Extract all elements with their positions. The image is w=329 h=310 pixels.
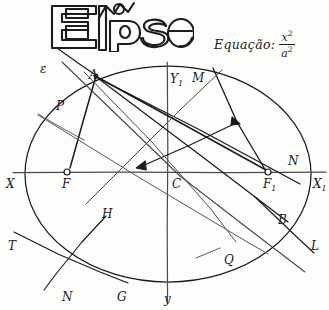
label-P-text: P xyxy=(56,99,64,113)
equation-denominator: a2 xyxy=(279,46,294,59)
focus-F1-marker xyxy=(265,169,271,175)
label-F: F xyxy=(62,178,70,190)
line-M-down-left xyxy=(86,70,222,204)
label-T: T xyxy=(8,240,16,252)
segment-P-to-chord xyxy=(38,114,84,140)
segment-A-to-B xyxy=(99,79,288,222)
label-P: P xyxy=(56,100,64,112)
equation-numerator: x2 xyxy=(279,30,294,43)
label-T-text: T xyxy=(8,239,16,253)
label-Y1: Y1 xyxy=(170,73,183,88)
label-X1: X1 xyxy=(313,178,327,193)
label-Y1-text: Y xyxy=(170,72,178,86)
tangent-line-T-G xyxy=(14,232,128,283)
label-M: M xyxy=(192,72,204,84)
label-G-text: G xyxy=(117,290,127,304)
label-Y1-subscript: 1 xyxy=(178,79,183,88)
normal-line-H-N xyxy=(44,216,106,290)
label-X1-subscript: 1 xyxy=(322,184,327,193)
label-G: G xyxy=(117,291,127,303)
diagram-page: Equação: x2 a2 εAPY1MNXFCF1X1HBTLQNGy xyxy=(0,0,329,310)
segment-Q-chord xyxy=(196,248,220,258)
label-X-left-text: X xyxy=(6,177,15,191)
minor-axis-line xyxy=(167,62,168,302)
label-F1-subscript: 1 xyxy=(271,184,276,193)
arrowhead-lower-left xyxy=(136,161,146,170)
segment-A-to-N xyxy=(98,78,300,184)
label-y-text: y xyxy=(164,292,171,306)
label-epsilon-text: ε xyxy=(40,62,46,76)
label-F-text: F xyxy=(62,177,70,191)
label-X-left: X xyxy=(6,178,15,190)
label-A: A xyxy=(89,69,98,81)
label-B: B xyxy=(278,214,287,226)
label-H-text: H xyxy=(102,207,112,221)
label-y: y xyxy=(164,293,171,305)
segment-P-diagonal-long xyxy=(38,115,268,254)
label-N-right: N xyxy=(288,155,299,167)
page-title xyxy=(44,0,194,52)
label-N-right-text: N xyxy=(288,154,299,168)
label-X1-text: X xyxy=(313,177,322,191)
label-N-bottom: N xyxy=(62,291,73,303)
equation-denominator-exponent: 2 xyxy=(288,45,293,54)
label-C-text: C xyxy=(172,177,181,191)
label-M-text: M xyxy=(192,71,204,85)
label-L: L xyxy=(311,240,319,252)
label-H: H xyxy=(102,208,112,220)
equation-label: Equação: xyxy=(214,37,275,52)
label-F1: F1 xyxy=(263,178,276,193)
label-A-text: A xyxy=(89,68,98,82)
label-C: C xyxy=(172,178,181,190)
label-epsilon: ε xyxy=(40,63,46,75)
equation-numerator-exponent: 2 xyxy=(288,29,293,38)
label-B-text: B xyxy=(278,213,287,227)
label-Q: Q xyxy=(224,254,234,266)
segment-A-to-F xyxy=(70,76,96,168)
focus-F-marker xyxy=(64,169,70,175)
equation-fraction: x2 a2 xyxy=(279,30,294,59)
label-L-text: L xyxy=(311,239,319,253)
equation-block: Equação: x2 a2 xyxy=(214,30,295,59)
label-Q-text: Q xyxy=(224,253,234,267)
label-N-bottom-text: N xyxy=(62,290,73,304)
title-logo-svg xyxy=(44,0,194,52)
